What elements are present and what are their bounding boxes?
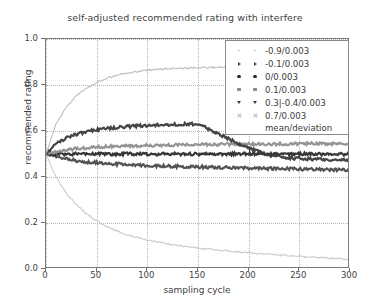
legend-item-4[interactable]: 0.1/0.003	[231, 83, 344, 96]
legend-marker-circle-icon	[231, 75, 263, 79]
legend-item-6[interactable]: 0.7/0.003	[231, 109, 344, 122]
y-tick-label: 0.2	[6, 217, 38, 227]
legend-marker-square-icon	[231, 88, 263, 92]
x-tick	[248, 268, 249, 272]
series-3	[46, 153, 349, 156]
legend-item-3[interactable]: 0/0.003	[231, 70, 344, 83]
legend-marker-right-triangle-icon	[231, 62, 263, 66]
y-tick-label: 1.0	[6, 33, 38, 43]
legend-item-label: -0.9/0.003	[263, 46, 309, 56]
chart-title: self-adjusted recommended rating with in…	[0, 12, 370, 23]
x-tick	[349, 268, 350, 272]
x-tick	[197, 268, 198, 272]
legend-item-label: 0/0.003	[263, 72, 298, 82]
x-tick	[146, 268, 147, 272]
marker-glyph-icon	[237, 88, 241, 92]
legend-caption: mean/deviation	[231, 122, 344, 135]
y-tick-label: 0.8	[6, 79, 38, 89]
y-axis-label: recommended rating	[23, 42, 33, 192]
marker-glyph-icon	[237, 113, 242, 118]
legend-item-label: 0.3|-0.4/0.003	[263, 98, 326, 108]
chart-figure: self-adjusted recommended rating with in…	[0, 0, 370, 306]
y-tick-label: 0.6	[6, 125, 38, 135]
marker-glyph-icon	[237, 75, 241, 79]
marker-glyph-icon	[254, 62, 257, 66]
y-tick-label: 0.0	[6, 263, 38, 273]
legend-item-1[interactable]: -0.9/0.003	[231, 44, 344, 57]
x-tick	[45, 268, 46, 272]
y-tick-label: 0.4	[6, 171, 38, 181]
marker-glyph-icon	[238, 62, 241, 66]
legend-item-2[interactable]: -0.1/0.003	[231, 57, 344, 70]
legend-item-label: 0.7/0.003	[263, 111, 306, 121]
marker-glyph-icon	[253, 113, 258, 118]
y-tick	[41, 268, 45, 269]
x-tick	[96, 268, 97, 272]
marker-glyph-icon	[237, 101, 241, 104]
legend-marker-x-icon	[231, 113, 263, 118]
x-tick	[298, 268, 299, 272]
marker-glyph-icon	[253, 75, 257, 79]
y-tick	[41, 130, 45, 131]
x-axis-label: sampling cycle	[45, 285, 349, 295]
marker-glyph-icon	[253, 88, 257, 92]
y-tick	[41, 84, 45, 85]
legend-marker-down-triangle-icon	[231, 101, 263, 104]
chart-legend[interactable]: -0.9/0.003-0.1/0.0030/0.0030.1/0.0030.3|…	[225, 40, 349, 135]
y-tick	[41, 222, 45, 223]
marker-glyph-icon	[254, 50, 256, 52]
series-2	[46, 154, 349, 171]
legend-item-label: -0.1/0.003	[263, 59, 309, 69]
legend-marker-dot-icon	[231, 50, 263, 52]
legend-item-label: 0.1/0.003	[263, 85, 306, 95]
y-tick	[41, 38, 45, 39]
marker-glyph-icon	[238, 50, 240, 52]
y-tick	[41, 176, 45, 177]
legend-item-5[interactable]: 0.3|-0.4/0.003	[231, 96, 344, 109]
marker-glyph-icon	[253, 101, 257, 104]
